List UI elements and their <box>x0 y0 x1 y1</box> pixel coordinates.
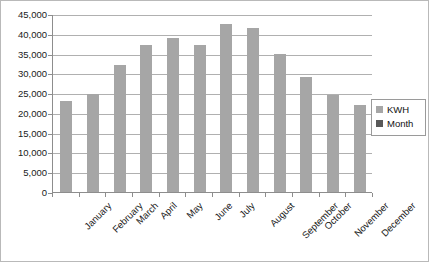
y-axis-tick-label: 20,000 <box>1 109 47 119</box>
x-axis-tick-mark <box>185 193 186 197</box>
y-axis-tick-label: 35,000 <box>1 50 47 60</box>
bar-slot <box>240 15 267 192</box>
x-axis-tick-mark <box>132 193 133 197</box>
bar[interactable] <box>220 24 232 192</box>
x-axis-tick-mark <box>345 193 346 197</box>
y-axis-tick-label: 25,000 <box>1 89 47 99</box>
bar[interactable] <box>300 77 312 192</box>
bar[interactable] <box>274 54 286 192</box>
x-axis-tick-label: July <box>237 200 257 220</box>
x-axis-tick-mark <box>265 193 266 197</box>
bar-slot <box>160 15 187 192</box>
x-axis-tick-label: April <box>158 200 179 221</box>
x-axis-tick-label: August <box>268 200 297 229</box>
y-axis-tick-label: 45,000 <box>1 10 47 20</box>
bar[interactable] <box>354 105 366 192</box>
y-axis: 05,00010,00015,00020,00025,00030,00035,0… <box>1 1 47 201</box>
x-axis-tick-label: January <box>82 200 114 232</box>
x-axis-tick-mark <box>52 193 53 197</box>
bar[interactable] <box>327 95 339 192</box>
legend-swatch-icon <box>376 106 383 113</box>
bar-slot <box>320 15 347 192</box>
bar-slot <box>293 15 320 192</box>
x-axis-tick-label: June <box>212 200 234 222</box>
bar[interactable] <box>194 45 206 192</box>
x-axis-tick-mark <box>212 193 213 197</box>
y-axis-tick-label: 0 <box>1 188 47 198</box>
bar[interactable] <box>87 94 99 192</box>
chart-screenshot: 05,00010,00015,00020,00025,00030,00035,0… <box>0 0 430 263</box>
bar-slot <box>266 15 293 192</box>
y-axis-tick-label: 30,000 <box>1 69 47 79</box>
bar[interactable] <box>247 28 259 192</box>
y-axis-tick-label: 5,000 <box>1 168 47 178</box>
x-axis-tick-mark <box>319 193 320 197</box>
x-axis-tick-mark <box>372 193 373 197</box>
y-axis-tick-label: 40,000 <box>1 30 47 40</box>
plot-area <box>52 15 372 193</box>
bar-slot <box>213 15 240 192</box>
x-axis-tick-mark <box>239 193 240 197</box>
chart-frame: 05,00010,00015,00020,00025,00030,00035,0… <box>0 0 429 262</box>
bar[interactable] <box>167 38 179 192</box>
bar-slot <box>53 15 80 192</box>
bar-slot <box>346 15 373 192</box>
legend-swatch-icon <box>376 120 383 127</box>
y-axis-tick-label: 15,000 <box>1 129 47 139</box>
y-axis-tick-label: 10,000 <box>1 148 47 158</box>
x-axis-tick-mark <box>105 193 106 197</box>
chart-legend: KWHMonth <box>371 99 426 136</box>
bar[interactable] <box>60 101 72 192</box>
x-axis-tick-mark <box>159 193 160 197</box>
bar-slot <box>133 15 160 192</box>
legend-label: KWH <box>387 104 409 115</box>
x-axis-tick-mark <box>79 193 80 197</box>
bar[interactable] <box>140 45 152 192</box>
legend-entry[interactable]: KWH <box>376 103 422 116</box>
x-axis-tick-label: May <box>184 200 204 220</box>
bar-slot <box>80 15 107 192</box>
legend-label: Month <box>387 118 413 129</box>
bar[interactable] <box>114 65 126 192</box>
x-axis-tick-mark <box>292 193 293 197</box>
legend-entry[interactable]: Month <box>376 117 422 130</box>
bar-slot <box>186 15 213 192</box>
bar-slot <box>106 15 133 192</box>
